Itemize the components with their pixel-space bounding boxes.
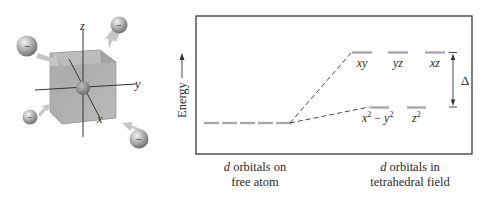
free-atom-caption: d orbitals on free atom [205,160,305,190]
down-arrow-icon [451,100,455,107]
caption-line2: tetrahedral field [355,175,465,190]
negative-charge-icon: − [24,40,30,52]
up-arrow-icon [180,53,185,60]
tetrahedral-field-caption: d orbitals in tetrahedral field [355,160,465,190]
ligand-bottom-left: − [23,110,38,125]
orbital-label-xy: xy [356,56,368,70]
z-axis-label: z [79,19,85,33]
lower-orbital-set: x2 − y2 z2 [361,108,426,126]
orbital-label-z2: z2 [411,110,421,125]
energy-axis-label: Energy [175,81,189,118]
tetrahedral-geometry-illustration: z y x − − − [17,17,149,149]
orbital-label-xz: xz [429,56,440,70]
upper-orbital-set: xy yz xz [352,53,445,71]
negative-charge-icon: − [136,134,142,145]
diagram-frame [196,16,472,154]
negative-charge-icon: − [27,113,32,123]
ligand-bottom-right: − [130,130,149,149]
energy-axis: Energy [175,53,189,118]
x-axis-label: x [96,112,103,126]
negative-charge-icon: − [116,20,122,31]
caption-line2: free atom [205,175,305,190]
crystal-field-figure: z y x − − − [0,0,489,201]
splitting-energy-label: Δ [461,73,469,88]
central-metal-atom [76,81,90,95]
ligand-top-left: − [17,36,38,57]
up-arrow-icon [451,54,455,61]
caption-line1: orbitals in [386,160,439,174]
arrow-icon [38,104,50,117]
y-axis-label: y [133,77,141,91]
caption-line1: orbitals on [230,160,286,174]
orbital-label-x2-y2: x2 − y2 [361,110,393,125]
ligand-top-right: − [111,17,128,34]
energy-level-diagram: Energy xy [175,16,472,154]
splitting-indicator: Δ [449,53,469,108]
orbital-label-yz: yz [392,56,403,70]
